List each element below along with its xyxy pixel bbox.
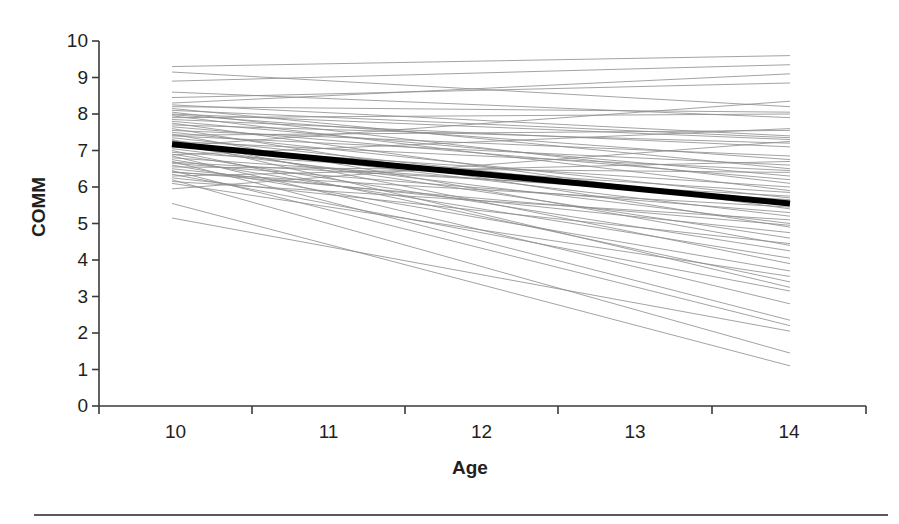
x-axis-tick-label: 11 xyxy=(299,422,359,441)
x-axis-tick-label: 10 xyxy=(146,422,206,441)
subject-trajectory-line xyxy=(172,218,790,331)
subject-trajectory-line xyxy=(172,65,790,81)
subject-trajectory-line xyxy=(172,180,790,353)
subject-trajectory-line xyxy=(172,72,790,107)
y-axis-tick-label: 10 xyxy=(54,31,88,50)
y-axis-tick-label: 3 xyxy=(54,287,88,306)
page-footer-rule xyxy=(34,514,888,516)
x-axis-tick-label: 12 xyxy=(452,422,512,441)
y-axis-tick-label: 1 xyxy=(54,360,88,379)
x-axis-tick-label: 14 xyxy=(759,422,819,441)
y-axis-tick-label: 4 xyxy=(54,250,88,269)
subject-trajectory-line xyxy=(172,203,790,365)
y-axis-tick-label: 8 xyxy=(54,104,88,123)
y-axis-tick-label: 7 xyxy=(54,141,88,160)
subject-trajectory-line xyxy=(172,92,790,118)
subject-trajectory-line xyxy=(172,83,790,98)
subject-trajectory-line xyxy=(172,56,790,67)
y-axis-tick-label: 9 xyxy=(54,68,88,87)
individual-trajectories-layer xyxy=(172,56,790,366)
y-axis-tick-label: 5 xyxy=(54,214,88,233)
subject-trajectory-line xyxy=(172,74,790,103)
y-axis-tick-label: 6 xyxy=(54,177,88,196)
y-axis-tick-label: 0 xyxy=(54,396,88,415)
x-axis-tick-label: 13 xyxy=(605,422,665,441)
figure-container: 012345678910 1011121314 COMM Age xyxy=(0,0,899,524)
x-axis-title: Age xyxy=(440,457,500,479)
y-axis-title: COMM xyxy=(28,176,50,238)
y-axis-tick-label: 2 xyxy=(54,323,88,342)
chart-plot-area xyxy=(0,0,899,524)
subject-trajectory-line xyxy=(172,161,790,320)
